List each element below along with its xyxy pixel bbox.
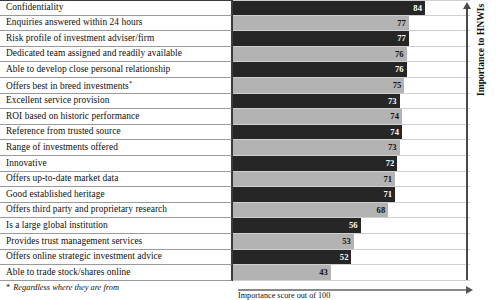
plot-cell: 43 [232, 265, 470, 281]
plot-cell: 52 [232, 250, 470, 266]
category-label: Innovative [6, 159, 47, 168]
bar: 52 [232, 250, 351, 265]
chart-row: Confidentiality84 [0, 0, 470, 16]
chart-row: Able to trade stock/shares online43 [0, 265, 470, 281]
bar-value-label: 73 [388, 97, 400, 106]
chart-row: Dedicated team assigned and readily avai… [0, 47, 470, 63]
bar: 75 [232, 78, 404, 93]
chart-row: Offers online strategic investment advic… [0, 250, 470, 266]
plot-cell: 71 [232, 187, 470, 203]
category-axis-line [232, 0, 233, 281]
category-label-cell: Able to trade stock/shares online [0, 265, 232, 281]
bar-value-label: 68 [377, 206, 389, 215]
bar: 73 [232, 94, 400, 109]
bar-value-label: 71 [383, 175, 395, 184]
category-label: Risk profile of investment adviser/firm [6, 34, 154, 43]
bar: 68 [232, 203, 388, 218]
bar: 76 [232, 47, 407, 62]
chart-row: Able to develop close personal relations… [0, 62, 470, 78]
bar: 71 [232, 187, 395, 202]
category-label: Offers online strategic investment advic… [6, 252, 162, 261]
category-label-cell: Offers third party and proprietary resea… [0, 203, 232, 219]
category-label-cell: Confidentiality [0, 0, 232, 16]
category-label: Is a large global institution [6, 221, 108, 230]
bar-value-label: 56 [349, 221, 361, 230]
category-label-cell: Provides trust management services [0, 234, 232, 250]
bar: 74 [232, 125, 402, 140]
chart-row: Good established heritage71 [0, 187, 470, 203]
plot-cell: 73 [232, 140, 470, 156]
category-label-cell: Good established heritage [0, 187, 232, 203]
bar-value-label: 43 [319, 268, 331, 277]
plot-cell: 74 [232, 109, 470, 125]
category-label: Offers up-to-date market data [6, 174, 118, 183]
bar-value-label: 53 [342, 237, 354, 246]
chart-row: Innovative72 [0, 156, 470, 172]
plot-cell: 73 [232, 94, 470, 110]
plot-cell: 72 [232, 156, 470, 172]
plot-cell: 77 [232, 31, 470, 47]
category-label-cell: Innovative [0, 156, 232, 172]
plot-cell: 53 [232, 234, 470, 250]
chart-row: Reference from trusted source74 [0, 125, 470, 141]
category-label-cell: Offers online strategic investment advic… [0, 250, 232, 266]
bar: 71 [232, 172, 395, 187]
bar: 72 [232, 156, 397, 171]
category-label-cell: Enquiries answered within 24 hours [0, 16, 232, 32]
plot-cell: 71 [232, 172, 470, 188]
category-label-cell: Able to develop close personal relations… [0, 62, 232, 78]
category-label: Able to develop close personal relations… [6, 65, 170, 74]
category-label: Reference from trusted source [6, 127, 121, 136]
bar-value-label: 74 [390, 112, 402, 121]
bar-value-label: 77 [397, 34, 409, 43]
bar-value-label: 84 [413, 4, 425, 13]
plot-cell: 76 [232, 62, 470, 78]
chart-row: Offers best in breed investments*75 [0, 78, 470, 94]
bar-value-label: 73 [388, 143, 400, 152]
chart-row: Range of investments offered73 [0, 140, 470, 156]
plot-cell: 84 [232, 0, 470, 16]
category-label: Offers third party and proprietary resea… [6, 205, 167, 214]
chart-row: Offers up-to-date market data71 [0, 172, 470, 188]
plot-cell: 74 [232, 125, 470, 141]
bar: 77 [232, 31, 409, 46]
category-label-cell: Reference from trusted source [0, 125, 232, 141]
category-label: Range of investments offered [6, 143, 118, 152]
bar-value-label: 71 [383, 190, 395, 199]
bar-value-label: 52 [340, 253, 352, 262]
plot-cell: 75 [232, 78, 470, 94]
plot-cell: 56 [232, 218, 470, 234]
category-label-cell: Range of investments offered [0, 140, 232, 156]
category-label: Good established heritage [6, 190, 105, 199]
category-label: Excellent service provision [6, 96, 109, 105]
category-label: Confidentiality [6, 3, 64, 12]
bar-value-label: 72 [386, 159, 398, 168]
chart-row: Offers third party and proprietary resea… [0, 203, 470, 219]
bar: 43 [232, 265, 331, 280]
bar-value-label: 74 [390, 128, 402, 137]
category-label-cell: ROI based on historic performance [0, 109, 232, 125]
bar-value-label: 75 [393, 81, 405, 90]
chart-row: Excellent service provision73 [0, 94, 470, 110]
bar: 84 [232, 1, 425, 15]
category-label-cell: Is a large global institution [0, 218, 232, 234]
chart-row: Risk profile of investment adviser/firm7… [0, 31, 470, 47]
vertical-axis-label: Importance to HNWIs [476, 0, 486, 96]
chart-row: Provides trust management services53 [0, 234, 470, 250]
category-label-cell: Offers up-to-date market data [0, 172, 232, 188]
category-label: Dedicated team assigned and readily avai… [6, 49, 182, 58]
plot-cell: 68 [232, 203, 470, 219]
horizontal-axis-arrowhead [466, 286, 473, 294]
bar: 77 [232, 16, 409, 31]
bar: 73 [232, 140, 400, 155]
chart-row: Is a large global institution56 [0, 218, 470, 234]
vertical-axis-arrowhead [463, 2, 471, 9]
plot-cell: 77 [232, 16, 470, 32]
bar: 76 [232, 62, 407, 77]
category-label-cell: Offers best in breed investments* [0, 78, 232, 94]
category-label-cell: Risk profile of investment adviser/firm [0, 31, 232, 47]
bar-value-label: 77 [397, 19, 409, 28]
plot-cell: 76 [232, 47, 470, 63]
footnote-text: Regardless where they are from [13, 283, 119, 292]
